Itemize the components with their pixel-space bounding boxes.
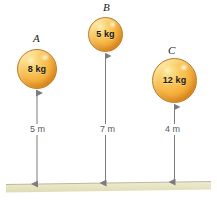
sphere-c: 12 kg	[152, 58, 197, 103]
sphere-a: 8 kg	[17, 49, 57, 89]
sphere-a-mass-label: 8 kg	[28, 65, 46, 74]
sphere-b-mass-label: 5 kg	[96, 30, 114, 39]
sphere-b: 5 kg	[88, 17, 123, 52]
sphere-c-mass-label: 12 kg	[163, 76, 187, 85]
physics-diagram: 8 kg A 5 m 5 kg B 7 m 12 kg C 4 m	[0, 0, 217, 200]
sphere-b-height-label: 7 m	[98, 124, 117, 135]
sphere-b-letter-label: B	[103, 2, 110, 13]
sphere-c-height-label: 4 m	[163, 124, 182, 135]
sphere-a-height-label: 5 m	[28, 124, 47, 135]
sphere-c-letter-label: C	[168, 45, 175, 56]
sphere-a-letter-label: A	[33, 33, 40, 44]
